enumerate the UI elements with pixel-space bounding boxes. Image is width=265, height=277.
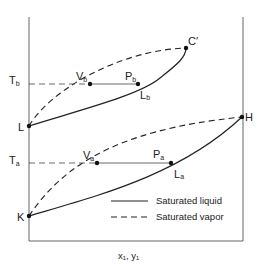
label-l: L — [18, 121, 24, 133]
point-vb — [88, 82, 92, 86]
upper-liquid-curve — [29, 48, 186, 126]
legend-vapor-label: Saturated vapor — [156, 211, 224, 222]
phase-diagram: Tb Ta C′ Vb Pb Lb L H Va Pa La K Saturat… — [0, 0, 265, 277]
label-lb: Lb — [140, 89, 150, 101]
label-tb: Tb — [9, 74, 20, 87]
label-vb: Vb — [76, 70, 87, 83]
point-va — [95, 161, 99, 165]
label-va: Va — [83, 149, 94, 162]
point-la — [169, 161, 173, 165]
label-c-prime: C′ — [188, 35, 198, 47]
label-ta: Ta — [9, 154, 20, 167]
point-h — [240, 115, 244, 119]
label-h: H — [245, 111, 253, 123]
legend: Saturated liquid Saturated vapor — [111, 195, 224, 222]
label-la: La — [174, 168, 184, 180]
label-pa: Pa — [153, 148, 164, 161]
point-lb — [136, 82, 140, 86]
label-pb: Pb — [125, 70, 136, 83]
point-k — [27, 214, 31, 218]
point-l — [27, 124, 31, 128]
upper-vapor-curve — [29, 48, 186, 126]
label-k: K — [17, 211, 25, 223]
x-axis-label: x₁, y₁ — [118, 250, 139, 261]
legend-liquid-label: Saturated liquid — [156, 195, 222, 206]
